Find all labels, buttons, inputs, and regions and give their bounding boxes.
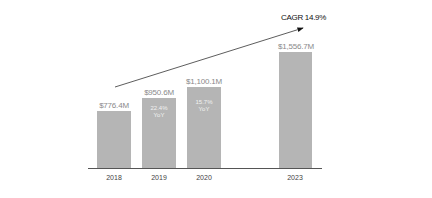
revenue-bar-chart: CAGR 14.9% $776.4M 2018 $950.6M 22.4% Yo… — [0, 0, 432, 198]
x-label-2023: 2023 — [275, 174, 315, 181]
yoy-unit-2020: YoY — [187, 106, 221, 113]
cagr-label: CAGR 14.9% — [281, 13, 326, 22]
value-label-2020: $1,100.1M — [174, 77, 234, 86]
yoy-label-2020: 15.7% YoY — [187, 99, 221, 113]
value-label-2023: $1,556.7M — [266, 42, 326, 51]
yoy-unit-2019: YoY — [142, 112, 176, 119]
yoy-pct-2020: 15.7% — [187, 99, 221, 106]
x-label-2018: 2018 — [94, 174, 134, 181]
bar-2023 — [279, 52, 312, 168]
value-label-2018: $776.4M — [84, 101, 144, 110]
x-label-2019: 2019 — [139, 174, 179, 181]
x-axis-line — [88, 168, 322, 169]
yoy-label-2019: 22.4% YoY — [142, 105, 176, 119]
bar-2018 — [97, 111, 131, 168]
yoy-pct-2019: 22.4% — [142, 105, 176, 112]
x-label-2020: 2020 — [184, 174, 224, 181]
value-label-2019: $950.6M — [129, 88, 189, 97]
